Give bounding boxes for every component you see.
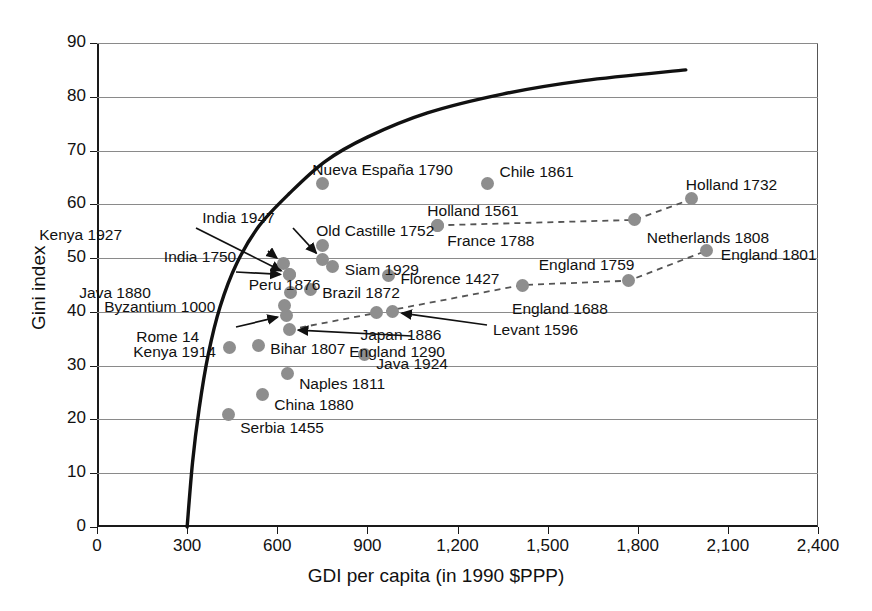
y-tick-label-90: 90: [40, 32, 86, 52]
point-label: England 1290: [349, 343, 445, 361]
gridline-y-20: [97, 419, 818, 420]
point-label: China 1880: [274, 396, 353, 414]
y-tick-label-0: 0: [40, 516, 86, 536]
point-label: Serbia 1455: [240, 419, 324, 437]
point-label: Japan 1886: [360, 326, 441, 344]
data-point: [222, 408, 235, 421]
x-tick-2100: [728, 527, 729, 534]
x-tick-1500: [548, 527, 549, 534]
x-tick-1200: [458, 527, 459, 534]
y-tick-20: [90, 419, 97, 420]
point-label: France 1788: [447, 232, 534, 250]
y-tick-50: [90, 258, 97, 259]
x-tick-label-900: 900: [327, 536, 407, 556]
point-label: Peru 1876: [249, 276, 321, 294]
gridline-y-80: [97, 97, 818, 98]
point-label: Chile 1861: [500, 163, 574, 181]
y-tick-80: [90, 97, 97, 98]
x-tick-1800: [638, 527, 639, 534]
point-label: Old Castille 1752: [316, 222, 434, 240]
x-tick-label-2100: 2,100: [688, 536, 768, 556]
gridline-y-10: [97, 473, 818, 474]
y-tick-70: [90, 151, 97, 152]
point-label: Netherlands 1808: [647, 229, 769, 247]
y-tick-60: [90, 204, 97, 205]
x-tick-label-0: 0: [57, 536, 137, 556]
point-label: Kenya 1927: [39, 226, 122, 244]
y-tick-label-70: 70: [40, 140, 86, 160]
point-label: Florence 1427: [400, 270, 499, 288]
x-tick-label-300: 300: [147, 536, 227, 556]
point-label: Bihar 1807: [270, 340, 345, 358]
data-point: [516, 279, 529, 292]
point-label: Holland 1561: [427, 202, 518, 220]
y-tick-label-40: 40: [40, 301, 86, 321]
data-point: [252, 339, 265, 352]
data-point: [281, 367, 294, 380]
point-label: Brazil 1872: [322, 284, 400, 302]
point-label: Levant 1596: [493, 321, 578, 339]
x-tick-300: [187, 527, 188, 534]
x-tick-0: [97, 527, 98, 534]
data-point: [256, 388, 269, 401]
x-tick-label-1200: 1,200: [418, 536, 498, 556]
point-label: India 1947: [202, 209, 274, 227]
x-tick-600: [277, 527, 278, 534]
gridline-y-90: [97, 43, 818, 44]
point-label: Java 1880: [79, 284, 151, 302]
data-point: [278, 299, 291, 312]
y-tick-label-60: 60: [40, 193, 86, 213]
x-tick-label-2400: 2,400: [778, 536, 858, 556]
gridline-y-30: [97, 366, 818, 367]
point-label: England 1759: [539, 256, 635, 274]
y-tick-90: [90, 43, 97, 44]
y-tick-label-80: 80: [40, 86, 86, 106]
x-axis-title: GDI per capita (in 1990 $PPP): [0, 565, 872, 587]
x-tick-900: [367, 527, 368, 534]
y-tick-10: [90, 473, 97, 474]
point-label: Holland 1732: [686, 176, 777, 194]
data-point: [316, 239, 329, 252]
point-label: England 1688: [512, 300, 608, 318]
chart-canvas: Gini index GDI per capita (in 1990 $PPP)…: [0, 0, 872, 611]
y-tick-40: [90, 312, 97, 313]
point-label: Nueva España 1790: [312, 161, 452, 179]
y-tick-label-20: 20: [40, 408, 86, 428]
point-label: Rome 14: [136, 328, 199, 346]
x-tick-label-1800: 1,800: [598, 536, 678, 556]
point-label: Naples 1811: [299, 375, 385, 393]
x-tick-label-600: 600: [237, 536, 317, 556]
y-tick-label-50: 50: [40, 247, 86, 267]
data-point: [283, 323, 296, 336]
data-point: [326, 260, 339, 273]
y-tick-30: [90, 366, 97, 367]
y-tick-label-10: 10: [40, 462, 86, 482]
point-label: England 1801: [721, 246, 817, 264]
point-label: India 1750: [164, 248, 236, 266]
x-tick-2400: [818, 527, 819, 534]
y-tick-0: [90, 527, 97, 528]
y-tick-label-30: 30: [40, 355, 86, 375]
gridline-y-70: [97, 151, 818, 152]
x-tick-label-1500: 1,500: [508, 536, 588, 556]
